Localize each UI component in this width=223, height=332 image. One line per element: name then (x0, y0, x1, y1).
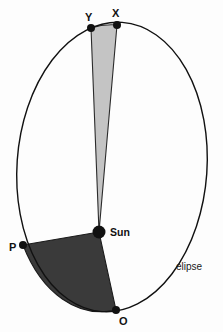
point-marker-y (87, 24, 95, 32)
orbit-diagram-svg (0, 0, 223, 332)
point-label-y: Y (85, 12, 92, 23)
point-marker-o (112, 306, 120, 314)
point-marker-p (19, 241, 27, 249)
kepler-equal-areas-figure: Y X P O Sun elipse (0, 0, 223, 332)
sun-label: Sun (110, 227, 130, 238)
aphelion-swept-area-sector (91, 25, 117, 232)
point-marker-x (113, 21, 121, 29)
ellipse-label: elipse (176, 262, 202, 272)
sun-marker (93, 226, 106, 239)
point-label-p: P (9, 242, 16, 253)
point-label-x: X (112, 8, 119, 19)
point-label-o: O (119, 316, 128, 327)
